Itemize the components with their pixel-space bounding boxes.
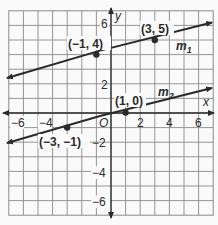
y-tick-2: 2 [101, 78, 108, 92]
y-tick-neg6: −6 [92, 195, 106, 209]
x-axis-label: x [202, 95, 210, 109]
point-neg3-neg1 [64, 124, 70, 130]
y-tick-neg4: −4 [92, 166, 106, 180]
label-3-5: (3, 5) [141, 22, 169, 36]
coordinate-plane: −6 −4 2 4 6 6 2 −2 −4 −6 y x O (−1, 4) (… [0, 0, 218, 225]
y-tick-6: 6 [101, 17, 108, 31]
label-1-0: (1, 0) [115, 94, 143, 108]
x-tick-2: 2 [137, 116, 144, 130]
label-neg1-4: (−1, 4) [68, 37, 103, 51]
label-neg3-neg1: (−3, −1) [39, 135, 81, 149]
point-1-0 [122, 109, 128, 115]
x-tick-6: 6 [195, 116, 202, 130]
y-tick-neg2: −2 [92, 136, 106, 150]
x-tick-4: 4 [166, 116, 173, 130]
point-3-5 [152, 37, 158, 43]
x-tick-neg6: −6 [11, 116, 25, 130]
origin-label: O [99, 116, 108, 130]
y-axis-label: y [114, 9, 122, 23]
point-neg1-4 [93, 51, 99, 57]
x-tick-neg4: −4 [39, 116, 53, 130]
